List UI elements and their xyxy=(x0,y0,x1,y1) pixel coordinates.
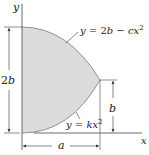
y-axis-label: y xyxy=(12,1,20,14)
dimension-2b-label: 2b xyxy=(1,74,15,87)
shaded-area xyxy=(22,27,100,133)
area-diagram: y x y = 2b − cx2 y = kx2 2b b a xyxy=(0,0,149,155)
dimension-a-label: a xyxy=(58,139,65,152)
x-axis-label: x xyxy=(141,135,147,146)
lower-curve-label: y = kx2 xyxy=(65,118,103,130)
upper-curve-label: y = 2b − cx2 xyxy=(79,24,144,36)
dimension-b-label: b xyxy=(109,102,116,115)
